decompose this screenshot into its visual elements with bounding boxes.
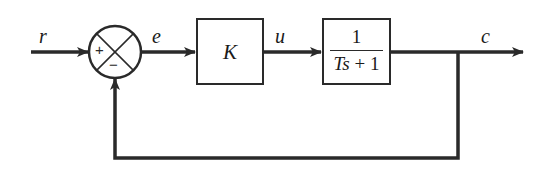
denominator: Ts + 1 bbox=[330, 53, 383, 75]
fraction-bar bbox=[330, 50, 383, 51]
block-diagram: + − r e u c K 1 Ts + 1 bbox=[0, 0, 553, 173]
plant-transfer-function-block: 1 Ts + 1 bbox=[322, 18, 391, 85]
plus-sign: + bbox=[95, 42, 104, 57]
reference-label: r bbox=[39, 26, 47, 46]
error-label: e bbox=[152, 26, 161, 46]
gain-label: K bbox=[198, 40, 262, 65]
transfer-function-fraction: 1 Ts + 1 bbox=[330, 26, 383, 75]
controller-gain-block: K bbox=[196, 18, 264, 85]
laplace-variable: s bbox=[342, 53, 349, 74]
numerator: 1 bbox=[330, 26, 383, 48]
output-label: c bbox=[481, 26, 490, 46]
feedback-path bbox=[115, 52, 458, 158]
minus-sign: − bbox=[109, 57, 118, 72]
control-label: u bbox=[275, 26, 285, 46]
denominator-rest: + 1 bbox=[350, 53, 380, 74]
